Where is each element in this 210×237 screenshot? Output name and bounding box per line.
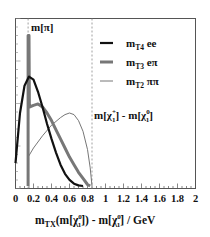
- chargino-mass-difference-label: m[χ+1] - m[χ01]: [94, 108, 153, 124]
- legend-label: mT3 eπ: [126, 56, 158, 71]
- x-tick-label: 1.2: [117, 193, 130, 204]
- legend-label: mT2 ππ: [126, 75, 159, 90]
- series-line: [16, 77, 84, 186]
- x-tick-label: 0: [13, 193, 18, 204]
- data-series: [16, 36, 93, 187]
- legend: mT4 eemT3 eπmT2 ππ: [100, 37, 159, 90]
- x-tick-label: 0.4: [45, 193, 59, 204]
- x-tick-label: 0.2: [27, 193, 40, 204]
- x-tick-label: 1.4: [135, 193, 149, 204]
- x-tick-label: 1.8: [171, 193, 184, 204]
- x-tick-label: 1: [103, 193, 108, 204]
- chart: 00.20.40.60.811.21.41.61.82 m[π] mT4 eem…: [0, 0, 210, 237]
- x-tick-label: 0.6: [63, 193, 76, 204]
- x-tick-label: 1.6: [153, 193, 166, 204]
- series-line: [28, 113, 92, 186]
- x-tick-labels: 00.20.40.60.811.21.41.61.82: [13, 193, 198, 204]
- x-tick-label: 2: [193, 193, 198, 204]
- x-axis-ticks: [16, 184, 196, 189]
- legend-label: mT4 ee: [126, 37, 157, 52]
- x-tick-label: 0.8: [81, 193, 94, 204]
- m-pi-label: m[π]: [31, 21, 54, 33]
- x-axis-label: mTX(m[χ01]) - m[χ01] / GeV: [35, 213, 156, 229]
